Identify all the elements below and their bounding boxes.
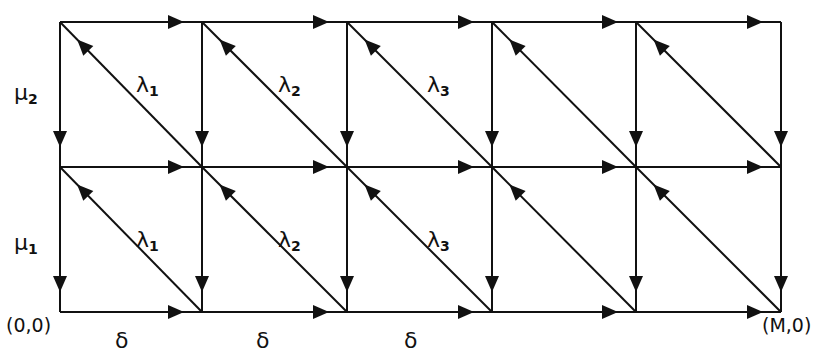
down-arrow-icon: [340, 131, 354, 147]
down-arrow-icon: [485, 131, 499, 147]
right-arrow-icon: [602, 305, 618, 319]
mu2-label: μ2: [14, 82, 38, 106]
right-arrow-icon: [458, 160, 474, 174]
right-arrow-icon: [313, 160, 329, 174]
down-arrow-icon: [195, 131, 209, 147]
down-arrow-icon: [485, 276, 499, 292]
right-arrow-icon: [168, 305, 184, 319]
lambda2-top-label: λ2: [278, 74, 301, 98]
down-arrow-icon: [53, 131, 67, 147]
lattice-diagram: [0, 0, 840, 362]
right-arrow-icon: [747, 160, 763, 174]
right-arrow-icon: [313, 15, 329, 29]
right-arrow-icon: [168, 15, 184, 29]
right-arrow-icon: [602, 15, 618, 29]
down-arrow-icon: [53, 276, 67, 292]
down-arrow-icon: [774, 131, 788, 147]
right-arrow-icon: [602, 160, 618, 174]
down-arrow-icon: [340, 276, 354, 292]
down-arrow-icon: [629, 131, 643, 147]
delta-label-1: δ: [115, 330, 128, 352]
end-coordinate-label: (M,0): [762, 314, 811, 336]
right-arrow-icon: [747, 305, 763, 319]
lambda1-top-label: λ1: [136, 74, 159, 98]
down-arrow-icon: [195, 276, 209, 292]
origin-coordinate-label: (0,0): [6, 314, 51, 336]
right-arrow-icon: [747, 15, 763, 29]
lambda2-bottom-label: λ2: [278, 229, 301, 253]
down-arrow-icon: [629, 276, 643, 292]
right-arrow-icon: [168, 160, 184, 174]
right-arrow-icon: [458, 305, 474, 319]
down-arrow-icon: [774, 276, 788, 292]
lambda3-top-label: λ3: [427, 74, 450, 98]
lambda3-bottom-label: λ3: [427, 229, 450, 253]
delta-label-2: δ: [256, 330, 269, 352]
delta-label-3: δ: [404, 330, 417, 352]
right-arrow-icon: [313, 305, 329, 319]
mu1-label: μ1: [14, 232, 38, 256]
lambda1-bottom-label: λ1: [136, 229, 159, 253]
right-arrow-icon: [458, 15, 474, 29]
